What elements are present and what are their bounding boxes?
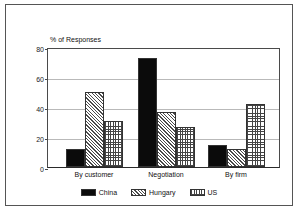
ytick-mark-60 bbox=[45, 79, 48, 80]
ytick-label-80: 80 bbox=[36, 46, 44, 53]
bar-china-by-customer[interactable] bbox=[66, 149, 85, 167]
bar-group-negotiation bbox=[138, 49, 196, 167]
bar-us-by-customer[interactable] bbox=[104, 121, 123, 168]
legend-swatch-hungary-icon bbox=[131, 189, 146, 196]
legend-item-us[interactable]: US bbox=[190, 189, 218, 196]
bar-hungary-negotiation[interactable] bbox=[157, 112, 176, 168]
legend-label-hungary: Hungary bbox=[149, 189, 175, 196]
legend-swatch-china-icon bbox=[81, 189, 96, 196]
xtick-label-negotiation: Negotiation bbox=[148, 171, 183, 178]
legend-label-china: China bbox=[99, 189, 117, 196]
ytick-mark-80 bbox=[45, 49, 48, 50]
xtick-label-by-customer: By customer bbox=[75, 171, 114, 178]
bar-china-negotiation[interactable] bbox=[138, 58, 157, 168]
plot-area: 80 60 40 20 0 bbox=[47, 48, 280, 168]
bar-us-negotiation[interactable] bbox=[176, 127, 195, 168]
ytick-mark-20 bbox=[45, 139, 48, 140]
y-axis-label: % of Responses bbox=[50, 36, 101, 43]
bar-group-by-firm bbox=[208, 49, 266, 167]
legend-item-hungary[interactable]: Hungary bbox=[131, 189, 175, 196]
chart-frame: % of Responses 80 60 40 20 0 bbox=[5, 4, 293, 206]
ytick-mark-40 bbox=[45, 109, 48, 110]
bar-hungary-by-firm[interactable] bbox=[227, 149, 246, 167]
bar-us-by-firm[interactable] bbox=[246, 104, 265, 167]
ytick-mark-0 bbox=[45, 169, 48, 170]
xtick-label-by-firm: By firm bbox=[225, 171, 247, 178]
bar-china-by-firm[interactable] bbox=[208, 145, 227, 168]
chart-legend: China Hungary US bbox=[6, 189, 292, 196]
ytick-label-40: 40 bbox=[36, 106, 44, 113]
bar-hungary-by-customer[interactable] bbox=[85, 92, 104, 167]
legend-item-china[interactable]: China bbox=[81, 189, 117, 196]
legend-swatch-us-icon bbox=[190, 189, 205, 196]
bar-group-by-customer bbox=[66, 49, 124, 167]
ytick-label-20: 20 bbox=[36, 136, 44, 143]
legend-label-us: US bbox=[208, 189, 218, 196]
ytick-label-60: 60 bbox=[36, 76, 44, 83]
ytick-label-0: 0 bbox=[40, 166, 44, 173]
